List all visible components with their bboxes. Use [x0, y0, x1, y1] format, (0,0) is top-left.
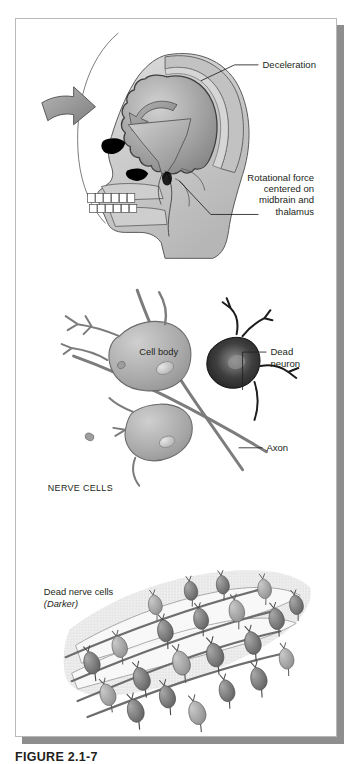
- label-cell-body: Cell body: [139, 347, 178, 357]
- figure-caption: FIGURE 2.1-7: [15, 750, 337, 764]
- lower-teeth: [90, 204, 137, 212]
- upper-teeth: [88, 194, 135, 203]
- label-deceleration: Deceleration: [262, 59, 316, 70]
- label-dead-neuron-line2: neuron: [270, 358, 300, 369]
- impact-arrow: [42, 87, 96, 125]
- debris-particle-2: [84, 432, 95, 442]
- label-dead-neuron-line1: Dead: [270, 346, 293, 357]
- label-nerve-cells-title: NERVE CELLS: [48, 483, 113, 493]
- label-dead-nerve-cells: Dead nerve cells: [44, 587, 114, 597]
- label-rotational-force-line2: centered on: [264, 183, 314, 194]
- dead-nerve-cells-field: Dead nerve cells (Darker): [44, 569, 311, 734]
- label-rotational-force-line3: midbrain and: [259, 194, 314, 205]
- dendrites-left: [66, 316, 120, 336]
- label-dead-nerve-cells-note: (Darker): [44, 599, 78, 609]
- dead-neuron-dendrites-right: [255, 365, 299, 420]
- figure-panel: Deceleration Rotational force centered o…: [15, 18, 337, 737]
- label-rotational-force-line1: Rotational force: [247, 172, 314, 183]
- lower-neuron-body: [125, 404, 192, 461]
- head-injury-diagram: Deceleration Rotational force centered o…: [42, 33, 316, 258]
- dead-neuron-dendrites-top: [223, 298, 273, 336]
- dendrite-upper: [159, 292, 166, 324]
- label-rotational-force-line4: thalamus: [275, 206, 314, 217]
- nerve-cells-diagram: Dead neuron Cell body Axon NERVE CELLS: [48, 290, 300, 492]
- midbrain-marker: [162, 172, 172, 186]
- label-axon: Axon: [266, 442, 288, 453]
- medical-illustration: Deceleration Rotational force centered o…: [16, 19, 336, 736]
- dendrites-left-lower: [62, 344, 108, 360]
